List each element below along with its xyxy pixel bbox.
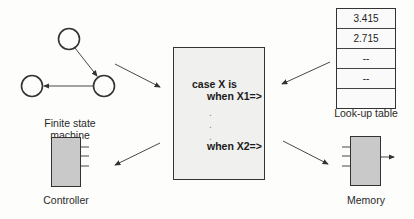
controller-label: Controller	[26, 194, 106, 206]
fsm-state-top	[59, 29, 80, 50]
arrow-case-to-controller	[115, 143, 160, 165]
code-ellipsis-2: .	[209, 118, 212, 130]
case-statement-box: case X is when X1=> . . . when X2=>	[173, 47, 265, 180]
code-line-when-x1: when X1=>	[207, 90, 262, 102]
memory-label: Memory	[326, 194, 406, 206]
code-line-case: case X is	[192, 78, 237, 90]
code-ellipsis-1: .	[209, 106, 212, 118]
fsm-graph	[22, 29, 115, 97]
fsm-state-right	[94, 76, 115, 97]
lut-row	[337, 89, 395, 108]
memory-block	[350, 136, 381, 186]
lookup-table-label: Look-up table	[326, 107, 406, 119]
lut-row: --	[337, 69, 395, 89]
arrow-lut-to-case	[282, 62, 330, 84]
lut-row: 2.715	[337, 29, 395, 49]
controller-pins	[81, 147, 89, 166]
fsm-state-left	[22, 76, 43, 97]
lookup-table: 3.415 2.715 -- --	[336, 8, 396, 109]
arrow-case-to-memory	[283, 141, 328, 164]
code-line-when-x2: when X2=>	[207, 140, 262, 152]
fsm-label-line1: Finite state	[28, 117, 112, 129]
arrow-fsm-to-case	[115, 64, 160, 87]
lut-row: 3.415	[337, 9, 395, 29]
lut-row: --	[337, 49, 395, 69]
controller-block	[51, 137, 81, 187]
